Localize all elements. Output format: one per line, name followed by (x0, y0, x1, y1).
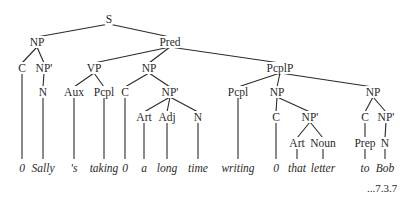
tree-edge (170, 97, 198, 112)
tree-node-vp: VP (86, 62, 103, 74)
tree-edge (144, 97, 170, 112)
tree-edge (37, 24, 109, 37)
tree-node-art1: Art (135, 111, 152, 123)
tree-node-pcplp: PcplP (266, 62, 295, 74)
tree-node-c2: C (120, 86, 130, 98)
tree-node-np2: NP (141, 62, 158, 74)
tree-edge (22, 47, 37, 63)
tree-node-pcpl1: Pcpl (93, 86, 115, 98)
leaf-word: 0 (121, 162, 129, 174)
tree-node-n2: N (193, 111, 203, 123)
tree-node-art2: Art (288, 137, 305, 149)
tree-edge (167, 97, 170, 112)
tree-node-s: S (105, 13, 113, 25)
tree-edge (170, 47, 280, 63)
leaf-word: time (187, 162, 209, 174)
tree-node-np3: NP (269, 86, 286, 98)
tree-edge (43, 73, 44, 87)
tree-edge (280, 73, 373, 87)
tree-node-c3: C (271, 111, 281, 123)
tree-edge (276, 97, 277, 112)
tree-node-adj: Adj (157, 111, 176, 123)
tree-node-np4: NP (365, 86, 382, 98)
tree-edge (125, 73, 149, 87)
tree-node-np1: NP (29, 36, 46, 48)
tree-edge (74, 73, 94, 87)
tree-edge (238, 73, 280, 87)
leaf-word: 's (70, 162, 79, 174)
tree-node-c1: C (17, 62, 27, 74)
leaf-word: writing (220, 162, 255, 174)
tree-node-aux: Aux (63, 86, 85, 98)
tree-edge (37, 47, 44, 63)
leaf-word: Sally (31, 162, 56, 174)
tree-edge (310, 122, 323, 138)
tree-edge (365, 97, 373, 112)
tree-node-npp3: NP' (301, 111, 320, 123)
syntax-tree-edges (0, 0, 410, 213)
tree-node-pred: Pred (158, 36, 181, 48)
tree-edge (94, 73, 104, 87)
leaf-word: to (360, 162, 371, 174)
tree-node-noun: Noun (309, 137, 337, 149)
tree-node-prep: Prep (353, 137, 376, 149)
tree-edge (277, 73, 280, 87)
tree-node-npp1: NP' (35, 62, 54, 74)
tree-edge (277, 97, 310, 112)
leaf-word: 0 (18, 162, 26, 174)
leaf-word: long (156, 162, 178, 174)
leaf-word: that (287, 162, 307, 174)
tree-node-n3: N (380, 137, 390, 149)
tree-node-n1: N (38, 86, 48, 98)
tree-node-pcpl2: Pcpl (227, 86, 249, 98)
reference-number: ...7.3.7 (367, 182, 397, 194)
leaf-word: letter (310, 162, 336, 174)
tree-node-c4: C (360, 111, 370, 123)
leaf-word: taking (89, 162, 120, 174)
tree-node-npp4: NP' (377, 111, 396, 123)
tree-node-npp2: NP' (161, 86, 180, 98)
leaf-word: Bob (375, 162, 396, 174)
leaf-word: 0 (272, 162, 280, 174)
tree-edge (149, 73, 170, 87)
leaf-word: a (140, 162, 148, 174)
tree-edge (373, 97, 386, 112)
tree-edge (297, 122, 310, 138)
tree-edge (385, 122, 386, 138)
